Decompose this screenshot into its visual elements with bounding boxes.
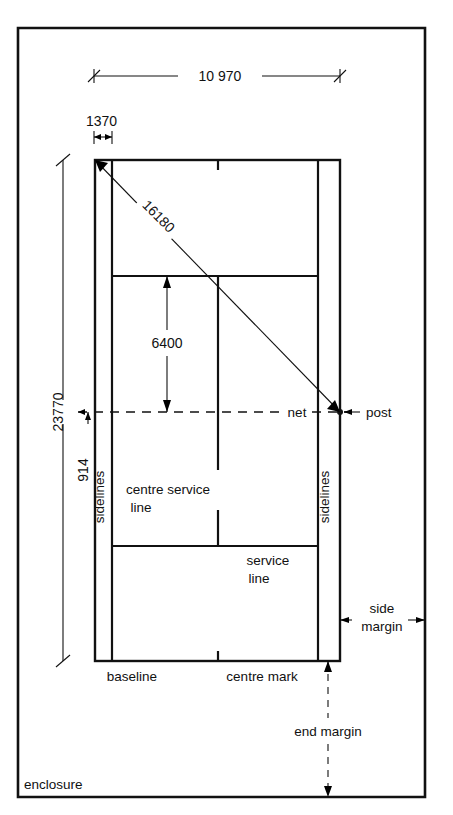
side-margin-arrow-right <box>416 617 425 623</box>
end-margin-label: end margin <box>294 724 362 739</box>
sidelines-label-left: sidelines <box>92 470 107 523</box>
side-margin-label-line2: margin <box>361 619 402 634</box>
tennis-court-diagram: 10 970 1370 23770 914 <box>0 0 453 815</box>
service-line-label-line2: line <box>248 571 269 586</box>
net-arrow-left <box>78 409 85 415</box>
net-label: net <box>288 405 307 420</box>
end-margin-arrow-bottom <box>324 786 332 797</box>
diagram-canvas: 10 970 1370 23770 914 <box>0 0 453 815</box>
diagonal-arrow-end <box>327 400 340 412</box>
dim-alley-arrow-left <box>94 134 101 140</box>
dim-6400-arrow-bottom <box>163 400 171 412</box>
dim-alley-arrow-right <box>105 134 112 140</box>
dim-alley-width-label: 1370 <box>86 113 117 129</box>
dim-alley-914-label: 914 <box>75 458 91 482</box>
enclosure-label: enclosure <box>24 777 83 792</box>
baseline-label: baseline <box>107 669 157 684</box>
post-arrow <box>344 409 352 415</box>
service-line-label-line1: service <box>247 553 290 568</box>
dim-court-length-label: 23770 <box>50 392 66 431</box>
centre-service-line-label-line2: line <box>130 500 151 515</box>
dim-court-width-label: 10 970 <box>199 68 242 84</box>
centre-mark-label: centre mark <box>226 669 298 684</box>
end-margin-arrow-top <box>324 661 332 672</box>
side-margin-label-line1: side <box>370 601 395 616</box>
centre-service-line-label-line1: centre service <box>126 482 210 497</box>
dim-6400-arrow-top <box>163 276 171 288</box>
side-margin-arrow-left <box>340 617 349 623</box>
sidelines-label-right: sidelines <box>317 470 332 523</box>
post-label: post <box>366 405 392 420</box>
diagonal-arrow-start <box>95 160 108 172</box>
dim-service-to-net-label: 6400 <box>151 335 182 351</box>
